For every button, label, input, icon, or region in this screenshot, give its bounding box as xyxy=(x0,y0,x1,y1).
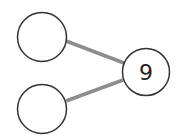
whole-value: 9 xyxy=(139,60,153,85)
connector-bottom xyxy=(66,80,123,101)
part-circle-top[interactable] xyxy=(18,13,67,62)
connector-top xyxy=(66,41,124,63)
part-circle-bottom[interactable] xyxy=(18,85,67,134)
number-bond-diagram: 9 xyxy=(0,0,180,140)
